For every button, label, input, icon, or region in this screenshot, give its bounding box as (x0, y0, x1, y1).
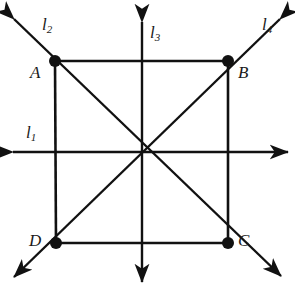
line-label-l2-subscript: 2 (47, 23, 53, 35)
line-label-l1: l1 (26, 124, 36, 141)
vertex-dot-c (222, 237, 234, 249)
line-label-l4-subscript: 4 (267, 23, 273, 35)
line-label-l4: l4 (262, 16, 272, 33)
line-label-l3: l3 (150, 24, 160, 41)
vertex-label-a: A (30, 64, 40, 81)
figure-canvas (0, 0, 295, 290)
vertex-dot-b (222, 55, 234, 67)
line-label-l1-subscript: 1 (31, 131, 37, 143)
vertex-label-b: B (238, 64, 248, 81)
vertex-label-d: D (29, 232, 41, 249)
line-label-l3-subscript: 3 (155, 31, 161, 43)
vertex-dot-a (49, 55, 61, 67)
geometry-figure: A B C D l1 l2 l3 l4 (0, 0, 295, 290)
vertex-dot-d (50, 237, 62, 249)
vertex-label-c: C (238, 232, 249, 249)
line-label-l2: l2 (42, 16, 52, 33)
